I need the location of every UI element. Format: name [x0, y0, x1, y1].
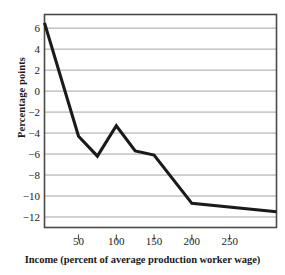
x-tick-label: 50 — [73, 236, 84, 247]
x-tick-label: 200 — [184, 236, 201, 247]
x-tick-label: 100 — [108, 236, 125, 247]
x-tick-labels: 50100150200250 — [0, 0, 285, 255]
x-tick-label: 150 — [146, 236, 163, 247]
y-axis-title: Percentage points — [16, 33, 27, 163]
x-tick-label: 250 — [221, 236, 238, 247]
x-axis-title: Income (percent of average production wo… — [0, 254, 285, 265]
chart-figure: 6420−2−4−6−8−10−12 50100150200250 Percen… — [0, 0, 285, 275]
